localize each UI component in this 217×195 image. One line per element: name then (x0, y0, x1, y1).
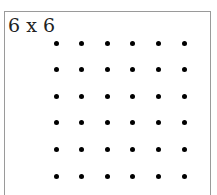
grid-dot (156, 94, 161, 99)
grid-dot (182, 94, 187, 99)
grid-dot (54, 174, 59, 179)
grid-dot (156, 67, 161, 72)
grid-dot (156, 147, 161, 152)
grid-dot (79, 147, 84, 152)
grid-dot (79, 94, 84, 99)
grid-dot (156, 41, 161, 46)
grid-dot (105, 41, 110, 46)
grid-dot (105, 94, 110, 99)
grid-dot (54, 120, 59, 125)
grid-dot (156, 174, 161, 179)
grid-dot (54, 147, 59, 152)
grid-dot (79, 41, 84, 46)
grid-dot (182, 147, 187, 152)
grid-dot (130, 174, 135, 179)
grid-dot (182, 41, 187, 46)
grid-dot (105, 147, 110, 152)
grid-dot (54, 41, 59, 46)
diagram-frame (4, 11, 211, 195)
grid-dot (182, 67, 187, 72)
grid-dot (182, 120, 187, 125)
grid-dot (105, 174, 110, 179)
grid-dot (182, 174, 187, 179)
grid-dot (79, 174, 84, 179)
grid-size-label: 6 x 6 (8, 14, 55, 36)
grid-dot (54, 67, 59, 72)
grid-dot (105, 67, 110, 72)
grid-dot (130, 41, 135, 46)
grid-dot (54, 94, 59, 99)
